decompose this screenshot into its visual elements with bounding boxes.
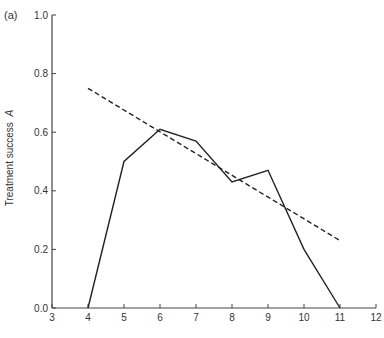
x-tick-label: 4 (85, 312, 91, 323)
panel-label: (a) (4, 9, 17, 21)
data-series (88, 88, 340, 308)
y-tick-label: 1.0 (34, 10, 48, 21)
x-tick-label: 10 (298, 312, 310, 323)
y-tick-label: 0.8 (34, 68, 48, 79)
y-axis-label-text: Treatment success (4, 122, 15, 206)
axes: 34567891011120.00.20.40.60.81.0 (34, 10, 382, 324)
series-observed-line (88, 129, 340, 308)
y-axis-label-variable: A (4, 109, 15, 117)
x-tick-label: 11 (335, 312, 346, 323)
y-tick-label: 0.4 (34, 185, 48, 196)
series-trend-line (88, 88, 340, 240)
svg-text:Treatment success A: Treatment success A (4, 109, 15, 206)
x-tick-label: 9 (265, 312, 271, 323)
y-tick-label: 0.2 (34, 244, 48, 255)
x-tick-label: 8 (229, 312, 235, 323)
x-tick-label: 6 (157, 312, 163, 323)
y-tick-label: 0.0 (34, 303, 48, 314)
x-tick-label: 7 (193, 312, 199, 323)
y-axis-label: Treatment success A (4, 109, 15, 206)
y-tick-label: 0.6 (34, 127, 48, 138)
x-tick-label: 12 (370, 312, 382, 323)
x-tick-label: 5 (121, 312, 127, 323)
x-tick-label: 3 (49, 312, 55, 323)
line-chart: (a) Treatment success A 34567891011120.0… (0, 0, 384, 338)
